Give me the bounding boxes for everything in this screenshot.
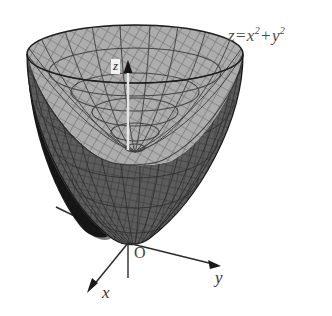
equation-term2-exponent: 2 <box>280 25 285 36</box>
surface-plot-svg <box>0 0 332 316</box>
equation-equals: = <box>235 26 247 45</box>
paraboloid-figure: z=x2+y2 z O y x <box>0 0 332 316</box>
x-axis-arrowhead <box>87 278 98 293</box>
origin-label: O <box>134 244 146 262</box>
z-axis-label: z <box>111 59 120 74</box>
equation-term2-base: y <box>272 26 280 45</box>
equation-plus: + <box>260 26 272 45</box>
equation-term1-base: x <box>247 26 255 45</box>
y-axis-label: y <box>215 268 223 288</box>
equation-label: z=x2+y2 <box>228 26 285 46</box>
x-axis-label: x <box>102 283 110 303</box>
equation-lhs: z <box>228 26 235 45</box>
